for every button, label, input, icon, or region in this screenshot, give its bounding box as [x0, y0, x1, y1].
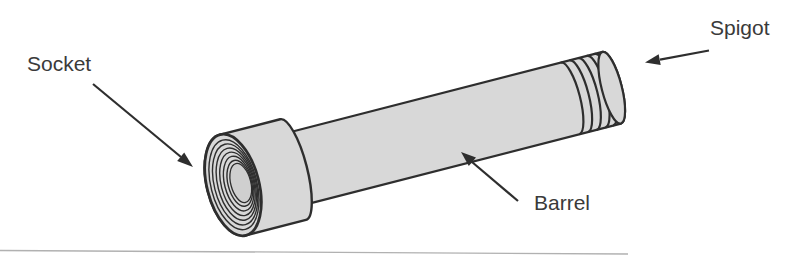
spigot-label: Spigot [710, 16, 770, 39]
spigot-arrow [645, 51, 709, 66]
barrel-arrow-line [472, 162, 518, 201]
diagram-stage: Socket Spigot Barrel [0, 0, 801, 257]
page-edge-line [0, 251, 628, 255]
pipe-diagram-canvas [0, 0, 801, 257]
spigot-arrowhead-icon [645, 54, 661, 65]
socket-arrow-line [93, 84, 181, 157]
barrel-label: Barrel [534, 191, 590, 214]
socket-label: Socket [27, 52, 91, 75]
socket-arrow [93, 84, 193, 167]
barrel-arrow [461, 152, 518, 201]
spigot-arrow-line [660, 51, 709, 60]
pipe-barrel [282, 49, 631, 205]
